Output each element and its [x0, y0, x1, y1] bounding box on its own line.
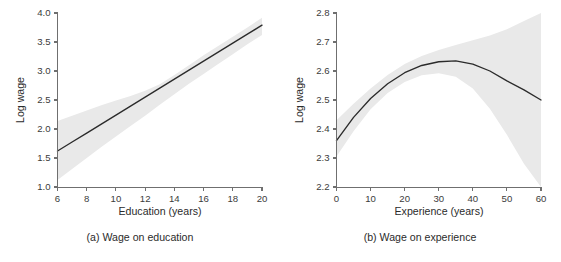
x-tick-label: 16	[198, 193, 209, 204]
x-tick-label: 50	[502, 193, 513, 204]
y-axis-ticks-experience	[333, 13, 337, 187]
x-tick-label: 18	[227, 193, 238, 204]
x-tick-label: 12	[140, 193, 151, 204]
x-tick-label: 6	[55, 193, 60, 204]
x-tick-label: 10	[111, 193, 122, 204]
figure-root: 1.01.52.02.53.03.54.0 68101214161820 Edu…	[0, 0, 561, 262]
x-tick-label: 8	[84, 193, 89, 204]
x-tick-label: 10	[365, 193, 376, 204]
y-tick-label: 2.3	[316, 152, 329, 163]
x-tick-label: 14	[169, 193, 180, 204]
x-axis-title-education: Education (years)	[118, 205, 201, 217]
chart-panel-wage-on-experience: 2.22.32.42.52.62.72.8 0102030405060 Expe…	[280, 0, 560, 262]
y-axis-tick-labels-experience: 2.22.32.42.52.62.72.8	[316, 7, 330, 192]
x-tick-label: 40	[467, 193, 478, 204]
x-tick-label: 20	[257, 193, 268, 204]
x-tick-label: 0	[334, 193, 339, 204]
y-axis-title-education: Log wage	[14, 77, 26, 123]
chart-canvas-education: 1.01.52.02.53.03.54.0 68101214161820 Edu…	[0, 0, 280, 262]
y-tick-label: 2.8	[316, 7, 329, 18]
panel-caption-a: (a) Wage on education	[0, 231, 280, 243]
confidence-band-experience	[337, 13, 542, 187]
confidence-band-education	[58, 18, 263, 180]
y-tick-label: 2.5	[37, 94, 50, 105]
y-tick-label: 1.0	[37, 181, 50, 192]
fit-line-education	[58, 25, 263, 151]
y-tick-label: 2.6	[316, 65, 329, 76]
y-tick-label: 1.5	[37, 152, 50, 163]
x-axis-tick-labels-education: 68101214161820	[55, 193, 268, 204]
chart-panel-wage-on-education: 1.01.52.02.53.03.54.0 68101214161820 Edu…	[0, 0, 280, 262]
x-tick-label: 20	[399, 193, 410, 204]
x-axis-title-experience: Experience (years)	[395, 205, 484, 217]
chart-canvas-experience: 2.22.32.42.52.62.72.8 0102030405060 Expe…	[280, 0, 560, 262]
y-tick-label: 3.0	[37, 65, 50, 76]
y-tick-label: 2.4	[316, 123, 330, 134]
y-axis-title-experience: Log wage	[293, 77, 305, 123]
x-tick-label: 60	[536, 193, 547, 204]
y-tick-label: 4.0	[37, 7, 50, 18]
y-tick-label: 3.5	[37, 36, 50, 47]
y-axis-ticks-education	[54, 13, 58, 187]
x-axis-tick-labels-experience: 0102030405060	[334, 193, 547, 204]
x-tick-label: 30	[433, 193, 444, 204]
y-tick-label: 2.7	[316, 36, 329, 47]
y-tick-label: 2.2	[316, 181, 329, 192]
panel-caption-b: (b) Wage on experience	[280, 231, 560, 243]
y-tick-label: 2.5	[316, 94, 329, 105]
y-axis-tick-labels-education: 1.01.52.02.53.03.54.0	[37, 7, 50, 192]
y-tick-label: 2.0	[37, 123, 50, 134]
